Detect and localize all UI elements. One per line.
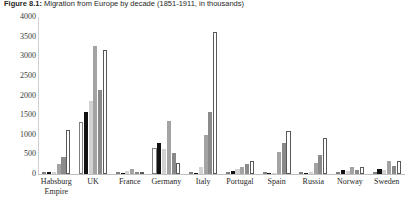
bar (346, 171, 350, 174)
x-axis-category-labels: HabsburgEmpireUKFranceGermanyItalyPortug… (38, 177, 405, 196)
bar (277, 152, 281, 174)
bar (42, 172, 46, 174)
x-axis-category-label: Portugal (222, 177, 259, 196)
bar (98, 90, 102, 174)
bar (387, 161, 391, 174)
bar (336, 172, 340, 174)
bar (397, 161, 401, 174)
bar (373, 172, 377, 174)
bar-group (75, 17, 112, 174)
bar (250, 161, 254, 174)
bar (263, 172, 267, 174)
bar (130, 169, 134, 174)
bar (304, 173, 308, 174)
bar (162, 149, 166, 174)
bar (103, 50, 107, 174)
bar (116, 172, 120, 174)
bar (314, 163, 318, 174)
bar (47, 172, 51, 174)
bar (382, 170, 386, 174)
bar (231, 171, 235, 174)
figure-title: Figure 8.1: Migration from Europe by dec… (4, 0, 404, 8)
bar (226, 172, 230, 174)
y-axis-tick-1000: 1000 (2, 131, 36, 139)
bar (299, 172, 303, 174)
x-axis-category-label: Sweden (368, 177, 405, 196)
x-axis-category-label: UK (75, 177, 112, 196)
bar (57, 164, 61, 174)
y-axis-tick-500: 500 (2, 150, 36, 158)
figure-container: Figure 8.1: Migration from Europe by dec… (0, 0, 409, 217)
bar (350, 167, 354, 174)
bar (286, 131, 290, 174)
figure-caption: Migration from Europe by decade (1851-19… (44, 0, 244, 8)
y-axis-tick-2500: 2500 (2, 72, 36, 80)
y-axis-tick-4000: 4000 (2, 13, 36, 21)
bar (172, 153, 176, 174)
y-axis-tick-3000: 3000 (2, 52, 36, 60)
bar (235, 169, 239, 174)
bar (125, 171, 129, 174)
bar (135, 172, 139, 174)
bar-group (295, 17, 332, 174)
x-axis-category-label: Germany (148, 177, 185, 196)
bar (272, 173, 276, 174)
bar-group (332, 17, 369, 174)
bar (245, 164, 249, 174)
bar (267, 173, 271, 174)
x-axis-category-label: Norway (332, 177, 369, 196)
bar (66, 130, 70, 174)
y-axis-tick-3500: 3500 (2, 33, 36, 41)
y-axis-tick-2000: 2000 (2, 92, 36, 100)
x-axis-category-label: HabsburgEmpire (38, 177, 75, 196)
bar (318, 155, 322, 174)
bar (89, 101, 93, 174)
y-axis-tick-labels: 40003500300025002000150010005000 (0, 0, 36, 175)
bar (213, 32, 217, 174)
bar (282, 143, 286, 174)
bar (93, 46, 97, 174)
bar-groups (38, 17, 405, 174)
bar (341, 170, 345, 174)
bar (52, 172, 56, 174)
bar (152, 148, 156, 174)
y-axis-tick-1500: 1500 (2, 111, 36, 119)
bar (140, 172, 144, 174)
bar (84, 112, 88, 174)
bar-group (185, 17, 222, 174)
bar (189, 172, 193, 174)
bar-group (38, 17, 75, 174)
bar (199, 167, 203, 174)
x-axis-line (38, 174, 405, 175)
x-axis-category-label: Spain (258, 177, 295, 196)
bar (167, 121, 171, 174)
bar (204, 135, 208, 174)
bar (355, 170, 359, 174)
x-axis-category-label: Italy (185, 177, 222, 196)
bar-group (258, 17, 295, 174)
y-axis-tick-0: 0 (2, 170, 36, 178)
bar (61, 157, 65, 174)
bar-group (111, 17, 148, 174)
bar (121, 173, 125, 174)
bar-group (148, 17, 185, 174)
bar (377, 169, 381, 174)
bar (309, 172, 313, 174)
bar (392, 166, 396, 174)
bar (240, 167, 244, 174)
x-axis-category-label: France (111, 177, 148, 196)
bar (79, 122, 83, 174)
bar (176, 163, 180, 174)
bar (323, 138, 327, 174)
bar (360, 167, 364, 174)
bar (194, 173, 198, 174)
bar (157, 143, 161, 174)
bar-group (222, 17, 259, 174)
bar-group (368, 17, 405, 174)
bar (208, 112, 212, 174)
x-axis-category-label: Russia (295, 177, 332, 196)
